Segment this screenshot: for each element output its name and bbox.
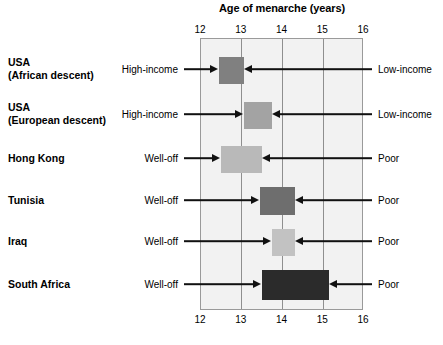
annotation-left-iraq: Well-off [144,236,178,247]
x-tick-bottom-16: 16 [350,314,376,325]
category-label-line1: South Africa [8,278,70,291]
arrow-head-right-usa-european-descent [272,110,280,118]
annotation-left-hong-kong: Well-off [144,153,178,164]
bar-usa-european-descent [244,102,273,129]
annotation-right-hong-kong: Poor [378,153,399,164]
arrow-line-left-south-africa [184,283,253,285]
arrow-head-right-iraq [295,237,303,245]
plot-area [200,38,363,310]
x-tick-top-14: 14 [269,24,295,35]
arrow-head-left-hong-kong [212,154,220,162]
arrow-head-left-tunisia [251,196,259,204]
category-label-south-africa: South Africa [8,278,70,291]
category-label-line1: USA [8,101,106,114]
category-label-tunisia: Tunisia [8,194,44,207]
arrow-line-left-usa-european-descent [184,113,235,115]
chart-figure: Age of menarche (years) 1213141516 12131… [0,0,443,345]
gridline-15 [323,39,324,309]
annotation-left-usa-african-descent: High-income [122,64,178,75]
bar-south-africa [262,270,329,300]
x-tick-bottom-14: 14 [269,314,295,325]
arrow-head-left-iraq [263,237,271,245]
arrow-head-right-south-africa [329,280,337,288]
annotation-right-iraq: Poor [378,236,399,247]
arrow-line-right-usa-european-descent [279,113,372,115]
category-label-line1: Hong Kong [8,152,65,165]
bar-hong-kong [221,146,262,173]
arrow-line-right-south-africa [336,283,372,285]
category-label-hong-kong: Hong Kong [8,152,65,165]
category-label-line1: Tunisia [8,194,44,207]
bar-iraq [272,229,294,256]
gridline-14 [282,39,283,309]
chart-title: Age of menarche (years) [200,2,364,14]
category-label-line2: (European descent) [8,114,106,127]
category-label-usa: USA(African descent) [8,56,94,81]
annotation-right-tunisia: Poor [378,195,399,206]
x-tick-bottom-12: 12 [187,314,213,325]
x-tick-top-13: 13 [228,24,254,35]
arrow-line-right-tunisia [302,199,372,201]
arrow-head-left-usa-african-descent [210,65,218,73]
category-label-line1: Iraq [8,235,27,248]
arrow-line-left-iraq [184,240,263,242]
x-tick-top-15: 15 [309,24,335,35]
arrow-head-left-usa-european-descent [235,110,243,118]
annotation-right-usa-african-descent: Low-income [378,64,432,75]
arrow-head-left-south-africa [253,280,261,288]
x-tick-top-12: 12 [187,24,213,35]
arrow-line-left-hong-kong [184,157,212,159]
category-label-usa: USA(European descent) [8,101,106,126]
annotation-left-usa-european-descent: High-income [122,109,178,120]
category-label-line2: (African descent) [8,69,94,82]
annotation-right-south-africa: Poor [378,279,399,290]
arrow-head-right-hong-kong [262,154,270,162]
annotation-right-usa-european-descent: Low-income [378,109,432,120]
arrow-head-right-tunisia [295,196,303,204]
arrow-head-right-usa-african-descent [244,65,252,73]
arrow-line-left-usa-african-descent [184,68,210,70]
bar-usa-african-descent [219,57,243,84]
arrow-line-right-iraq [302,240,372,242]
arrow-line-right-hong-kong [269,157,372,159]
arrow-line-right-usa-african-descent [251,68,372,70]
annotation-left-tunisia: Well-off [144,195,178,206]
x-tick-bottom-13: 13 [228,314,254,325]
x-tick-top-16: 16 [350,24,376,35]
arrow-line-left-tunisia [184,199,251,201]
x-tick-bottom-15: 15 [309,314,335,325]
category-label-iraq: Iraq [8,235,27,248]
bar-tunisia [260,187,295,215]
category-label-line1: USA [8,56,94,69]
annotation-left-south-africa: Well-off [144,279,178,290]
